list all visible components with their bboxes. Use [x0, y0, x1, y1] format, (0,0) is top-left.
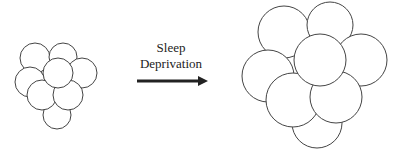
label-line-1: Sleep: [128, 40, 214, 56]
label-line-2: Deprivation: [128, 56, 214, 72]
arrow-label: Sleep Deprivation: [128, 40, 214, 72]
small-cell-cluster: [15, 43, 97, 129]
cell-circle: [294, 34, 346, 86]
diagram-canvas: [0, 0, 398, 153]
arrow-icon: [137, 76, 208, 86]
cell-circle: [43, 58, 73, 88]
large-cell-cluster: [242, 2, 387, 148]
